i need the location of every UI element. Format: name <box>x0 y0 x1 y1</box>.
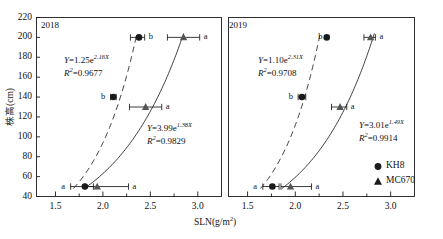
eq-coefficient: 1.10 <box>268 55 284 65</box>
eq-coefficient: 3.99 <box>157 123 173 133</box>
sig-letter-pt-2019-MC670-200: a <box>379 32 383 41</box>
y-tick-label-200: 200 <box>8 32 32 42</box>
r2-2018-kh8: R2=0.9677 <box>64 67 103 78</box>
panel-label-2019: 2019 <box>229 21 247 30</box>
r2-value: 0.9829 <box>161 136 186 146</box>
x-tick-label-2019-3.0: 3.0 <box>379 202 403 212</box>
x-tick-label-2019-2.5: 2.5 <box>331 202 355 212</box>
x-axis-title-main: SLN(g/m <box>194 217 230 227</box>
r2-2018-mc670: R2=0.9829 <box>147 135 186 146</box>
triangle-marker-pt-2018-MC670-200[interactable] <box>180 33 187 40</box>
eq-coefficient: 3.01 <box>369 120 385 130</box>
sig-letter-pt-2019-KH8-200: b <box>318 32 322 41</box>
legend-triangle-marker <box>374 177 382 184</box>
eq-coefficient: 1.25 <box>74 55 90 65</box>
equation-2018-mc670: Y=3.99e1.38X <box>147 122 192 133</box>
circle-marker-pt-2019-KH8-50[interactable] <box>269 183 276 190</box>
r2-2019-kh8: R2=0.9708 <box>258 67 297 78</box>
r2-value: 0.9914 <box>373 133 398 143</box>
r2-2019-mc670: R2=0.9914 <box>359 132 398 143</box>
legend-label-kh8: KH8 <box>386 161 404 171</box>
x-tick-label-2019-2.0: 2.0 <box>283 202 307 212</box>
sig-letter-pt-2019-MC670-50: a <box>315 182 319 191</box>
eq-exponent: 1.49X <box>389 118 404 125</box>
sig-letter-pt-2018-KH8-140: b <box>101 92 105 101</box>
r2-value: 0.9677 <box>78 68 103 78</box>
y-tick-label-220: 220 <box>8 13 32 23</box>
circle-marker-pt-2019-KH8-140[interactable] <box>299 94 306 101</box>
eq-exponent: 2.31X <box>288 53 303 60</box>
equation-2018-kh8: Y=1.25e2.16X <box>64 54 109 65</box>
equation-2019-mc670: Y=3.01e1.49X <box>359 119 404 130</box>
sig-letter-pt-2018-MC670-50: a <box>133 182 137 191</box>
triangle-marker-pt-2018-MC670-50[interactable] <box>94 183 101 190</box>
eq-exponent: 2.16X <box>94 53 109 60</box>
y-tick-label-100: 100 <box>8 132 32 142</box>
legend-label-mc670: MC670 <box>386 176 415 186</box>
figure-root: 株高(cm) SLN(g/m2) 2018 2019 Y=1.25e2.16X … <box>0 0 443 239</box>
x-tick-label-2018-1.5: 1.5 <box>43 202 67 212</box>
sig-letter-pt-2019-MC670-130: a <box>351 102 355 111</box>
y-tick-label-80: 80 <box>8 152 32 162</box>
sig-letter-pt-2019-KH8-140: b <box>289 92 293 101</box>
y-tick-label-160: 160 <box>8 72 32 82</box>
panel-label-2018: 2018 <box>41 21 59 30</box>
x-tick-label-2018-2.0: 2.0 <box>91 202 115 212</box>
y-tick-label-180: 180 <box>8 52 32 62</box>
legend-circle-marker <box>375 163 382 170</box>
eq-exponent: 1.38X <box>177 121 192 128</box>
triangle-marker-pt-2019-MC670-130[interactable] <box>336 103 343 110</box>
x-axis-title: SLN(g/m2) <box>194 216 236 228</box>
sig-letter-pt-2018-KH8-50: a <box>61 182 65 191</box>
x-tick-label-2018-3.0: 3.0 <box>186 202 210 212</box>
equation-2019-kh8: Y=1.10e2.31X <box>258 54 303 65</box>
circle-marker-pt-2018-KH8-200[interactable] <box>136 34 143 41</box>
triangle-marker-pt-2018-MC670-130[interactable] <box>142 103 149 110</box>
sig-letter-pt-2018-MC670-200: a <box>204 32 208 41</box>
circle-marker-pt-2019-KH8-200[interactable] <box>323 34 330 41</box>
y-tick-label-60: 60 <box>8 172 32 182</box>
x-tick-label-2018-2.5: 2.5 <box>138 202 162 212</box>
panel-frame-2018 <box>37 18 222 197</box>
sig-letter-pt-2018-MC670-130: a <box>166 102 170 111</box>
y-tick-label-120: 120 <box>8 112 32 122</box>
x-tick-label-2019-1.5: 1.5 <box>236 202 260 212</box>
x-axis-title-tail: ) <box>233 217 236 227</box>
y-tick-label-140: 140 <box>8 92 32 102</box>
circle-marker-pt-2018-KH8-140[interactable] <box>110 94 117 101</box>
sig-letter-pt-2019-KH8-50: a <box>253 182 257 191</box>
sig-letter-pt-2018-KH8-200: b <box>149 32 153 41</box>
r2-value: 0.9708 <box>272 68 297 78</box>
y-tick-label-40: 40 <box>8 192 32 202</box>
